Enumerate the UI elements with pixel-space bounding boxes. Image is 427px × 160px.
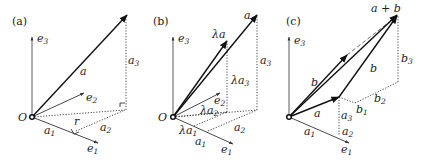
vector-diagram-figure: (a) e3 e2 e1 r a2 a3 a1 a O (b) e3 e2 e1	[0, 0, 427, 160]
panel-a: (a) e3 e2 e1 r a2 a3 a1 a O	[12, 15, 140, 156]
component-b1-label: b1	[356, 103, 368, 117]
panel-c: (c) e3 e1 a3 a2 a1 b1 b2 b3 a b a + b b	[286, 2, 413, 157]
component-la3-label: λa3	[230, 74, 250, 88]
panel-b-label: (b)	[153, 15, 169, 28]
panel-c-label: (c)	[286, 15, 301, 28]
origin-point	[171, 115, 176, 120]
projection-r-label: r	[74, 115, 80, 128]
component-b2-label: b2	[374, 92, 386, 106]
vector-b-label: b	[311, 76, 318, 89]
panel-a-label: (a)	[12, 15, 27, 28]
component-a1-label: a1	[304, 125, 315, 139]
e3-axis-label: e3	[37, 32, 49, 46]
right-angle-mark-vertical	[120, 103, 125, 107]
e3-axis-label: e3	[294, 34, 306, 48]
component-a2-label: a2	[100, 121, 112, 135]
component-a1-label: a1	[44, 124, 55, 138]
component-a3-label: a3	[341, 109, 353, 123]
origin-label: O	[18, 111, 27, 124]
e2-axis-label: e2	[86, 91, 98, 105]
vector-a-label: a	[314, 107, 321, 120]
component-b1-line	[339, 97, 355, 103]
component-a3-label: a3	[260, 54, 272, 68]
component-a3-label: a3	[128, 54, 140, 68]
origin-point	[287, 115, 292, 120]
vector-b-translated-arrow	[339, 16, 397, 97]
vector-a-label: a	[80, 65, 87, 78]
origin-point	[30, 115, 35, 120]
e1-axis-label: e1	[341, 143, 352, 157]
vector-sum-label: a + b	[371, 2, 401, 15]
vector-lambda-a-label: λa	[211, 28, 226, 41]
e1-axis-arrow	[289, 117, 349, 143]
e1-axis-label: e1	[221, 143, 232, 157]
e1-axis-label: e1	[87, 142, 98, 156]
panel-b: (b) e3 e2 e1 λa2 λa3 a3 a2 λa1 a1 a λa O	[153, 9, 272, 157]
e2-axis-arrow	[32, 93, 84, 117]
vector-b-translated-label: b	[370, 62, 377, 75]
origin-label: O	[158, 111, 167, 124]
e3-axis-label: e3	[178, 32, 190, 46]
component-b3-label: b3	[401, 52, 413, 66]
e1-axis-arrow	[32, 117, 98, 143]
e2-axis-label: e2	[214, 94, 226, 108]
vector-a-label: a	[244, 9, 251, 22]
component-a2-label: a2	[342, 125, 354, 139]
component-a1-label: a1	[195, 135, 206, 149]
component-a2-label: a2	[234, 121, 246, 135]
